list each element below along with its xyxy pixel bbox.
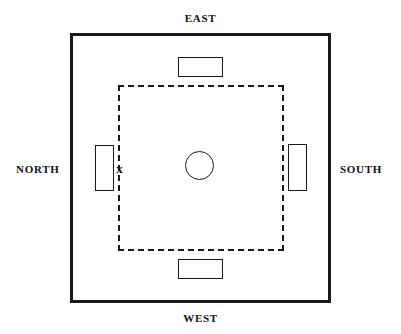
center-circle — [185, 151, 214, 180]
compass-label-west: WEST — [0, 313, 401, 324]
rectangle-bottom — [178, 259, 223, 279]
rectangle-right — [288, 144, 307, 191]
x-marker: x — [113, 161, 126, 176]
rectangle-left — [95, 145, 114, 191]
compass-label-north: NORTH — [16, 164, 59, 175]
diagram-canvas: EAST NORTH SOUTH WEST x — [0, 0, 401, 334]
compass-label-south: SOUTH — [340, 164, 382, 175]
rectangle-top — [178, 57, 223, 77]
compass-label-east: EAST — [0, 13, 401, 24]
